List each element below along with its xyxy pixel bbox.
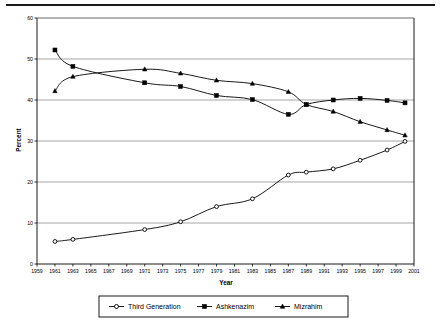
series-line-0: [55, 141, 405, 241]
x-axis-tick-labels: 1959196119631965196719691971197319751977…: [31, 268, 420, 274]
svg-text:40: 40: [27, 97, 33, 103]
svg-text:1985: 1985: [265, 268, 277, 274]
svg-text:1981: 1981: [229, 268, 241, 274]
line-chart-svg: 0102030405060 19591961196319651967196919…: [0, 0, 441, 331]
svg-text:1997: 1997: [372, 268, 384, 274]
x-axis-title: Year: [219, 279, 233, 286]
svg-text:1979: 1979: [211, 268, 223, 274]
svg-text:1965: 1965: [85, 268, 97, 274]
svg-text:1991: 1991: [318, 268, 330, 274]
legend-label-0: Third Generation: [128, 303, 181, 310]
series-line-2: [55, 69, 405, 135]
legend-label-2: Mizrahim: [294, 303, 323, 310]
series-markers: [53, 48, 407, 243]
svg-text:1961: 1961: [49, 268, 61, 274]
svg-text:1995: 1995: [354, 268, 366, 274]
svg-text:1989: 1989: [301, 268, 313, 274]
y-axis-tick-labels: 0102030405060: [27, 15, 33, 267]
svg-text:1983: 1983: [247, 268, 259, 274]
svg-text:1969: 1969: [121, 268, 133, 274]
svg-text:50: 50: [27, 56, 33, 62]
svg-text:1987: 1987: [283, 268, 295, 274]
chart-figure: 0102030405060 19591961196319651967196919…: [0, 0, 441, 331]
legend-label-1: Ashkenazim: [216, 303, 254, 310]
svg-text:30: 30: [27, 138, 33, 144]
svg-text:1999: 1999: [390, 268, 402, 274]
svg-text:1971: 1971: [139, 268, 151, 274]
svg-text:1975: 1975: [175, 268, 187, 274]
y-axis-title: Percent: [15, 127, 22, 151]
svg-text:60: 60: [27, 15, 33, 21]
svg-text:1967: 1967: [103, 268, 115, 274]
svg-text:1977: 1977: [193, 268, 205, 274]
svg-text:0: 0: [30, 261, 33, 267]
svg-text:10: 10: [27, 220, 33, 226]
svg-text:1973: 1973: [157, 268, 169, 274]
svg-text:2001: 2001: [408, 268, 420, 274]
svg-text:20: 20: [27, 179, 33, 185]
svg-text:1959: 1959: [31, 268, 43, 274]
series-line-1: [55, 50, 405, 114]
legend-box: Third GenerationAshkenazimMizrahim: [99, 296, 348, 317]
svg-text:1993: 1993: [336, 268, 348, 274]
svg-text:1963: 1963: [67, 268, 79, 274]
series-lines: [55, 50, 405, 241]
